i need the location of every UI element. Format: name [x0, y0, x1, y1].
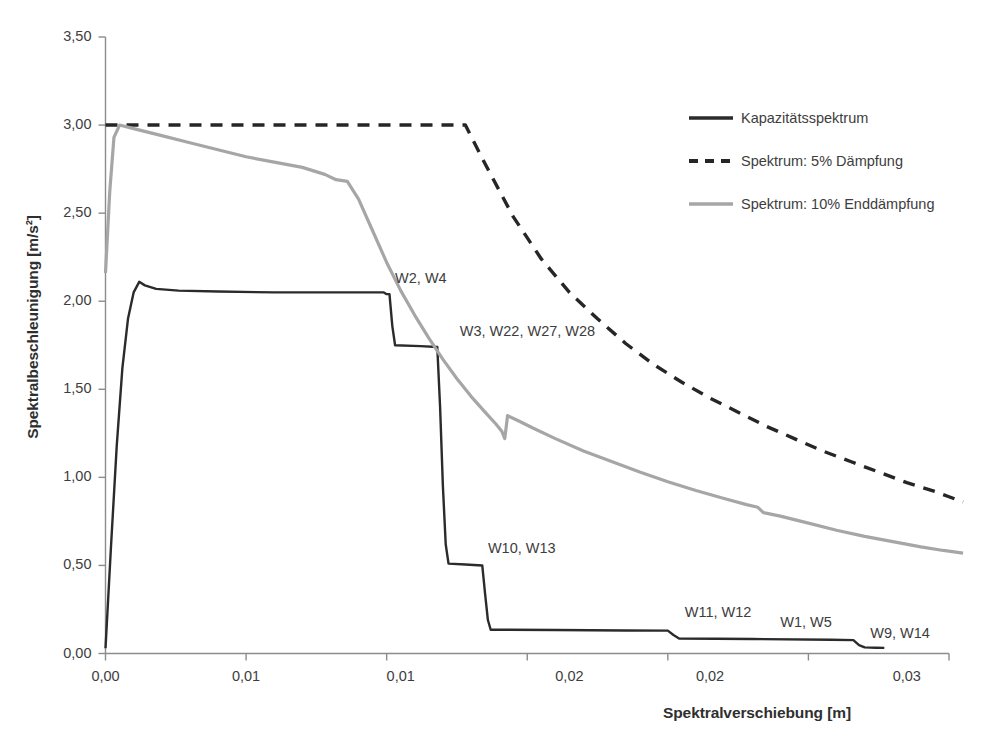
data-point-annotation: W1, W5: [780, 614, 832, 630]
legend: KapazitätsspektrumSpektrum: 5% DämpfungS…: [688, 96, 1004, 225]
y-tick-label: 1,00: [46, 468, 92, 484]
x-axis-title: Spektralverschiebung [m]: [663, 704, 851, 722]
x-axis-ticks: [106, 654, 950, 661]
y-tick-label: 3,00: [46, 116, 92, 132]
y-tick-label: 0,50: [46, 556, 92, 572]
data-point-annotation: W3, W22, W27, W28: [460, 323, 595, 339]
y-tick-label: 1,50: [46, 380, 92, 396]
capacity-spectrum-chart: Spektralbeschleunigung [m/s²] Spektralve…: [0, 0, 1008, 755]
data-point-annotation: W11, W12: [685, 604, 752, 620]
dashed-dark-line-icon: [688, 155, 734, 167]
data-point-annotation: W9, W14: [870, 625, 930, 641]
x-tick-label: 0,01: [371, 668, 431, 684]
solid-gray-line-icon: [688, 198, 734, 210]
data-point-annotation: W10, W13: [488, 540, 556, 556]
x-tick-label: 0,02: [539, 668, 599, 684]
y-tick-label: 2,00: [46, 292, 92, 308]
legend-item-label: Spektrum: 10% Enddämpfung: [741, 196, 934, 212]
x-tick-label: 0,01: [216, 668, 276, 684]
legend-item-label: Spektrum: 5% Dämpfung: [741, 153, 903, 169]
y-axis-ticks: [99, 37, 106, 654]
y-tick-label: 2,50: [46, 204, 92, 220]
solid-dark-line-icon: [688, 112, 734, 124]
x-tick-label: 0,03: [877, 668, 937, 684]
legend-item[interactable]: Spektrum: 5% Dämpfung: [688, 139, 1004, 182]
y-tick-label: 0,00: [46, 645, 92, 661]
y-tick-label: 3,50: [46, 28, 92, 44]
data-point-annotation: W2, W4: [395, 270, 447, 286]
legend-item-label: Kapazitätsspektrum: [741, 110, 868, 126]
legend-item[interactable]: Spektrum: 10% Enddämpfung: [688, 182, 1004, 225]
x-tick-label: 0,00: [76, 668, 136, 684]
y-axis-title: Spektralbeschleunigung [m/s²]: [24, 162, 42, 492]
legend-item[interactable]: Kapazitätsspektrum: [688, 96, 1004, 139]
x-tick-label: 0,02: [680, 668, 740, 684]
